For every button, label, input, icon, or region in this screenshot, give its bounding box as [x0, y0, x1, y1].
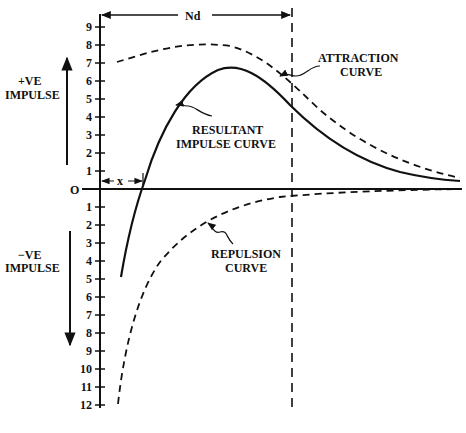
negative-ticks: 123456789101112	[80, 200, 105, 412]
axis-tick-label: 2	[86, 146, 92, 160]
axis-tick-label: 9	[86, 20, 92, 34]
axis-tick-label: 7	[86, 56, 92, 70]
positive-impulse-label: +VE	[18, 74, 42, 88]
axis-tick-label: 1	[86, 164, 92, 178]
axis-tick-label: 8	[86, 326, 92, 340]
impulse-diagram: 123456789 123456789101112 O +VE IMPULSE …	[0, 0, 466, 433]
attraction-leader	[280, 66, 320, 76]
origin-label: O	[70, 183, 79, 197]
repulsion-label: REPULSION	[211, 247, 281, 261]
axis-tick-label: 2	[86, 218, 92, 232]
x-label: x	[117, 174, 123, 188]
resultant-label: RESULTANT	[192, 123, 263, 137]
axis-tick-label: 11	[81, 380, 92, 394]
axis-tick-label: 4	[86, 254, 92, 268]
attraction-curve	[117, 44, 460, 178]
positive-ticks: 123456789	[86, 20, 105, 178]
axis-tick-label: 10	[80, 362, 92, 376]
axis-tick-label: 6	[86, 290, 92, 304]
nd-label: Nd	[185, 9, 201, 23]
resultant-impulse-curve	[121, 68, 460, 277]
positive-impulse-label-2: IMPULSE	[5, 88, 60, 102]
axis-tick-label: 3	[86, 236, 92, 250]
axis-tick-label: 7	[86, 308, 92, 322]
axis-tick-label: 9	[86, 344, 92, 358]
axis-tick-label: 1	[86, 200, 92, 214]
axis-tick-label: 5	[86, 272, 92, 286]
attraction-label-2: CURVE	[340, 65, 382, 79]
axis-tick-label: 12	[80, 398, 92, 412]
axis-tick-label: 8	[86, 38, 92, 52]
attraction-label: ATTRACTION	[318, 51, 399, 65]
negative-impulse-label-2: IMPULSE	[5, 261, 60, 275]
axis-tick-label: 5	[86, 92, 92, 106]
repulsion-leader	[208, 223, 233, 244]
resultant-label-2: IMPULSE CURVE	[176, 137, 276, 151]
axis-tick-label: 6	[86, 74, 92, 88]
negative-impulse-label: −VE	[18, 248, 42, 262]
repulsion-label-2: CURVE	[225, 261, 267, 275]
resultant-leader	[176, 105, 212, 116]
axis-tick-label: 4	[86, 110, 92, 124]
axis-tick-label: 3	[86, 128, 92, 142]
repulsion-curve	[118, 189, 460, 404]
